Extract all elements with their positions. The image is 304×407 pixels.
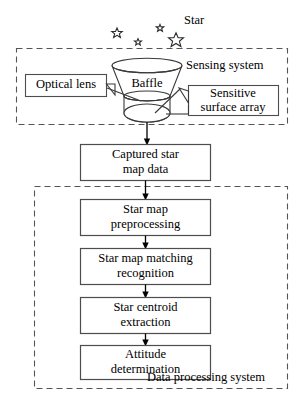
step-3-line2: extraction (121, 315, 172, 329)
captured-box-line2: map data (123, 162, 169, 176)
sensitive-surface-callout-tail (179, 88, 189, 103)
optical-lens-callout-text: Optical lens (36, 77, 96, 91)
sensitive-surface-callout-line1: Sensitive (210, 86, 256, 100)
step-star-map-preprocessing: Star map preprocessing (81, 200, 211, 236)
sensitive-surface-ellipse (124, 104, 170, 122)
star-tiny-upper (156, 24, 164, 31)
step-star-map-matching-recognition: Star map matching recognition (81, 249, 211, 285)
stars-group: Star (112, 13, 205, 47)
step-1-line2: preprocessing (111, 217, 181, 231)
sensitive-surface-array-callout: Sensitive surface array (155, 86, 279, 116)
diagram-root: Star Sensing system Baffle Optical lens … (0, 0, 304, 407)
star-large-right (169, 33, 184, 47)
baffle-label: Baffle (131, 76, 162, 90)
star-label: Star (184, 13, 205, 27)
step-2-line2: recognition (117, 266, 175, 280)
sensitive-surface-callout-line2: surface array (201, 100, 267, 114)
captured-box-line1: Captured star (112, 147, 180, 161)
baffle-assembly: Baffle (112, 58, 182, 122)
data-processing-system-label: Data processing system (147, 370, 265, 384)
star-small-left (112, 28, 122, 38)
sensing-system-label: Sensing system (186, 58, 264, 72)
step-star-centroid-extraction: Star centroid extraction (81, 298, 211, 334)
captured-star-map-data-box: Captured star map data (81, 145, 211, 181)
step-1-line1: Star map (123, 202, 168, 216)
step-2-line1: Star map matching (98, 251, 193, 265)
step-4-line1: Attitude (125, 347, 166, 361)
star-tiny-mid (134, 39, 141, 46)
baffle-top-rim (112, 58, 182, 72)
step-3-line1: Star centroid (113, 300, 178, 314)
diagram-canvas: Star Sensing system Baffle Optical lens … (0, 0, 304, 407)
